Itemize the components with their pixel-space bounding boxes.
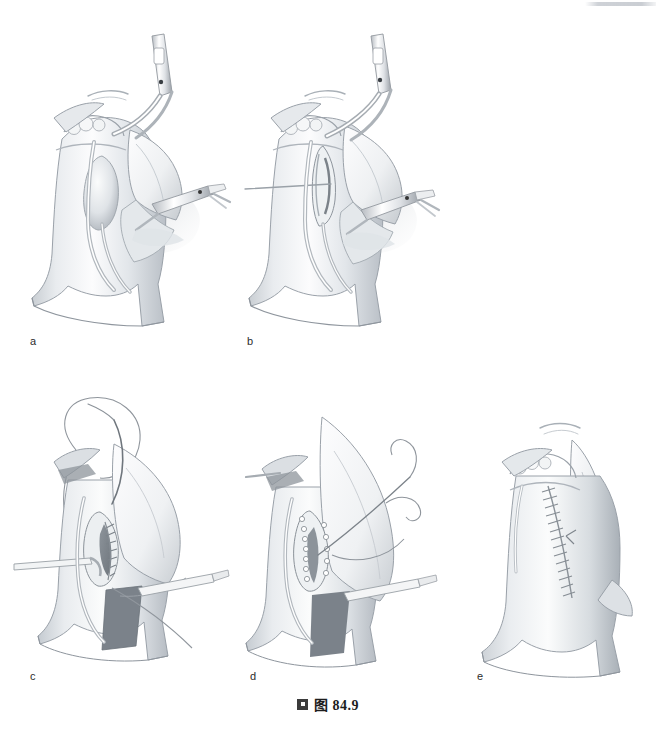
skin-contour-2 [544, 430, 578, 434]
scan-artifact-line [585, 2, 656, 6]
skin-contour [88, 91, 128, 96]
panel-e [462, 420, 652, 680]
figure-page: a [0, 0, 656, 739]
panel-c [14, 392, 229, 667]
skin-contour-2 [92, 97, 126, 100]
panel-label-d: d [250, 671, 256, 682]
panel-label-e: e [477, 671, 483, 682]
panel-label-a: a [30, 336, 36, 347]
suture-thread-tail-mid [386, 497, 421, 520]
suture-thread-tail-upper [391, 440, 416, 477]
filled-square-bullet-icon [297, 699, 308, 710]
cartilage-bump [93, 119, 105, 131]
panel-b [235, 34, 445, 334]
skin-contour-2 [309, 97, 343, 100]
skin-contour [305, 91, 345, 96]
cartilage-bump [310, 119, 322, 131]
skin-contour [540, 424, 580, 429]
posterior-wall-dark [310, 591, 350, 657]
figure-caption-text: 图 84.9 [314, 694, 359, 714]
figure-caption: 图 84.9 [0, 694, 656, 714]
panel-label-b: b [247, 336, 253, 347]
panel-d [240, 415, 445, 670]
needle-tail [88, 404, 114, 420]
panel-label-c: c [30, 671, 36, 682]
panel-a [18, 34, 228, 334]
